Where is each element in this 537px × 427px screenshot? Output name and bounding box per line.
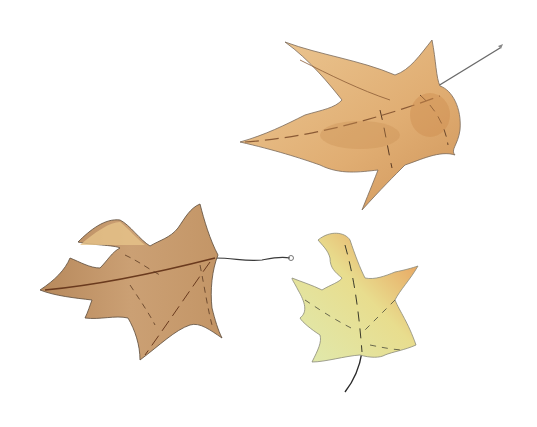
illustration-canvas: Watercolor illustration of three autumn … [0, 0, 537, 427]
oak-leaf [40, 204, 294, 360]
maple-leaf-small [292, 233, 418, 392]
maple-leaf-large [240, 40, 503, 210]
leaves-illustration [0, 0, 537, 427]
